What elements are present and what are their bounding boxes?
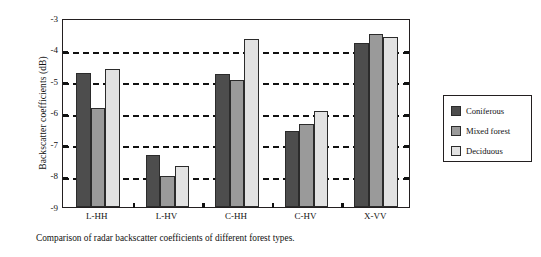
x-tick-label-l-hh: L-HH [62,211,132,222]
plot-area [62,19,410,208]
legend-swatch-icon [451,126,461,136]
legend-item-mixed-forest[interactable]: Mixed forest [451,124,510,138]
bar-c-hh-deciduous [244,39,259,207]
figure-caption: Comparison of radar backscatter coeffici… [36,233,295,243]
y-tickmark-right [404,114,409,116]
x-tick-label-c-hv: C-HV [271,211,341,222]
bar-c-hv-deciduous [314,111,329,207]
y-tickmark-left [63,51,68,53]
y-tickmark-right [404,82,409,84]
legend-label: Deciduous [466,146,503,156]
y-tickmark-right [404,177,409,179]
bar-l-hv-deciduous [175,166,190,207]
y-tickmark-right [404,145,409,147]
bar-x-vv-deciduous [383,37,398,207]
y-tick-label: -4 [36,46,58,55]
bar-l-hh-mixed-forest [91,108,106,207]
x-tick-label-l-hv: L-HV [132,211,202,222]
y-tick-label: -7 [36,141,58,150]
legend-item-coniferous[interactable]: Coniferous [451,104,504,118]
bar-x-vv-mixed-forest [369,34,384,207]
y-tickmark-left [63,177,68,179]
legend-swatch-icon [451,146,461,156]
y-tick-label: -6 [36,109,58,118]
legend: ConiferousMixed forestDeciduous [443,95,532,162]
plot-inner [63,20,409,207]
legend-label: Mixed forest [466,126,510,136]
x-axis-tick-labels: L-HHL-HVC-HHC-HVX-VV [62,211,410,225]
y-tick-label: -9 [36,204,58,213]
x-tick-label-x-vv: X-VV [340,211,410,222]
bar-l-hv-coniferous [146,155,161,207]
bar-c-hv-mixed-forest [299,124,314,207]
x-tickmark [133,203,135,208]
bar-c-hh-mixed-forest [230,80,245,207]
bar-x-vv-coniferous [354,43,369,207]
bar-l-hv-mixed-forest [160,176,175,208]
bar-c-hv-coniferous [285,131,300,207]
x-tick-label-c-hh: C-HH [201,211,271,222]
y-tick-label: -5 [36,78,58,87]
x-tickmark [341,203,343,208]
bar-l-hh-deciduous [105,69,120,207]
y-tick-label: -3 [36,15,58,24]
legend-label: Coniferous [466,106,504,116]
y-tickmark-left [63,82,68,84]
y-tickmark-left [63,114,68,116]
legend-swatch-icon [451,106,461,116]
x-tickmark [272,203,274,208]
figure-container: Backscatter coefficients (dB) -3-4-5-6-7… [0,0,541,257]
x-tickmark [202,203,204,208]
y-tickmark-right [404,51,409,53]
y-axis-tick-labels: -3-4-5-6-7-8-9 [36,0,58,257]
bar-l-hh-coniferous [76,73,91,207]
bar-c-hh-coniferous [215,74,230,207]
legend-item-deciduous[interactable]: Deciduous [451,144,503,158]
y-tickmark-left [63,145,68,147]
y-tick-label: -8 [36,172,58,181]
